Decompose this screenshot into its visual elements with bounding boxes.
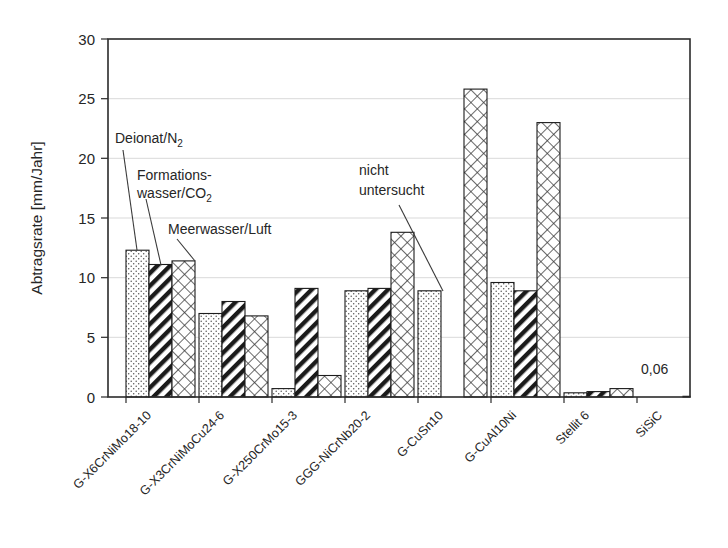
bar-formations-0 — [149, 265, 172, 398]
bar-chart-svg: 0 5 10 15 20 25 30 Abtragsrate [mm/Jahr] — [0, 0, 728, 548]
bar-deionat-0 — [126, 250, 149, 397]
bar-formations-3 — [368, 288, 391, 397]
y-tick-0: 0 — [87, 389, 95, 406]
annotation-deionat-main: Deionat/N — [115, 130, 177, 146]
y-tick-20: 20 — [78, 150, 95, 167]
y-tick-30: 30 — [78, 31, 95, 48]
annotation-nicht-line1: nicht — [359, 162, 389, 178]
bar-meerwasser-0 — [172, 261, 195, 397]
bar-formations-6 — [587, 392, 610, 397]
data-label-sisic: 0,06 — [641, 361, 668, 377]
annotation-meerwasser: Meerwasser/Luft — [168, 221, 272, 237]
y-tick-25: 25 — [78, 90, 95, 107]
annotation-formations-subscript: 2 — [206, 193, 212, 204]
chart-background — [0, 0, 728, 548]
annotation-formations-text: wasser/CO — [136, 185, 206, 201]
annotation-formations-line1: Formations- — [137, 167, 212, 183]
bar-group-g-x3crnimocu24-6 — [199, 302, 268, 398]
y-tick-10: 10 — [78, 269, 95, 286]
bar-deionat-2 — [272, 389, 295, 397]
y-tick-5: 5 — [87, 329, 95, 346]
bar-formations-1 — [222, 302, 245, 398]
bar-meerwasser-4 — [464, 89, 487, 397]
y-tick-15: 15 — [78, 210, 95, 227]
bar-group-g-x6crnimo18-10 — [126, 250, 195, 397]
annotation-deionat-subscript: 2 — [177, 138, 183, 149]
annotation-formationswasser: Formations- wasser/CO2 — [136, 167, 212, 204]
bar-formations-5 — [514, 291, 537, 397]
bar-meerwasser-6 — [610, 389, 633, 397]
bar-meerwasser-5 — [537, 123, 560, 397]
bar-deionat-1 — [199, 314, 222, 398]
bar-deionat-4 — [418, 291, 441, 397]
bar-deionat-3 — [345, 291, 368, 397]
annotation-nicht-line2: untersucht — [359, 182, 424, 198]
bar-meerwasser-3 — [391, 232, 414, 397]
y-axis-title: Abtragsrate [mm/Jahr] — [28, 141, 45, 294]
bar-deionat-5 — [491, 283, 514, 398]
bar-meerwasser-2 — [318, 376, 341, 398]
bar-formations-2 — [295, 288, 318, 397]
bar-meerwasser-1 — [245, 316, 268, 397]
chart-figure: 0 5 10 15 20 25 30 Abtragsrate [mm/Jahr] — [0, 0, 728, 548]
